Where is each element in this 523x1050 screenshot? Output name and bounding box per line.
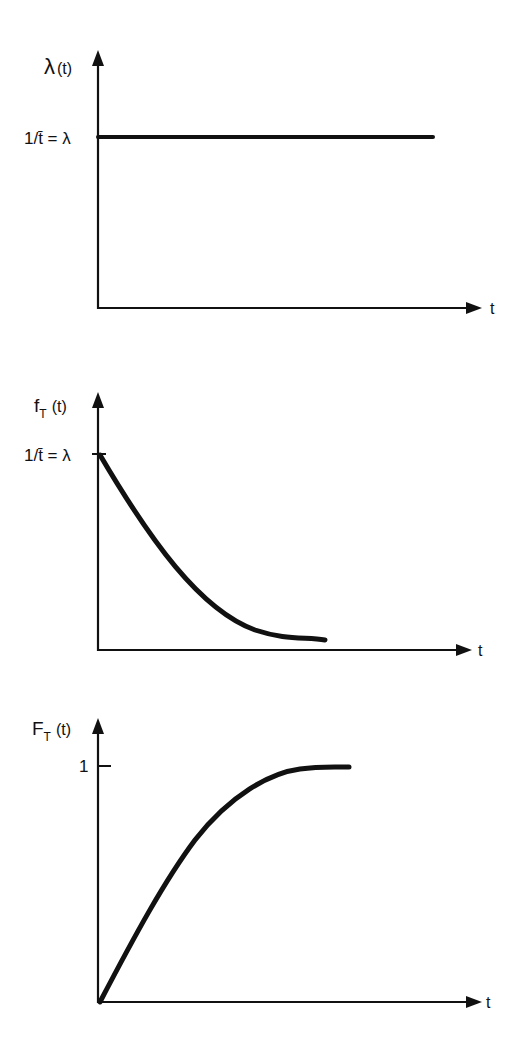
y-axis-arrow-icon [92, 718, 104, 734]
y-label-sub: T [44, 730, 52, 744]
y-label-arg: (t) [57, 60, 72, 77]
y-label-main: F [32, 718, 44, 739]
y-axis-label: fT(t) [34, 395, 67, 421]
x-axis-label: t [478, 642, 483, 659]
y-axis-arrow-icon [92, 50, 104, 66]
figure-canvas: t λ(t) 1/t̄ = λ t fT(t) 1/t̄ = λ t FT(t)… [0, 0, 523, 1050]
y-axis-label: λ(t) [44, 54, 72, 79]
y-tick-label: 1/t̄ = λ [24, 129, 71, 148]
x-axis-label: t [490, 300, 495, 317]
y-label-sub: T [39, 407, 47, 421]
chart-cumulative: t FT(t) 1 [32, 718, 491, 1011]
x-axis-arrow-icon [466, 996, 482, 1008]
cumulative-curve [100, 767, 349, 1002]
y-label-arg: (t) [56, 721, 71, 738]
y-tick-label: 1/t̄ = λ [24, 446, 71, 465]
y-label-main: λ [44, 54, 55, 79]
x-axis-label: t [486, 994, 491, 1011]
chart-density: t fT(t) 1/t̄ = λ [24, 392, 483, 659]
x-axis-arrow-icon [456, 644, 472, 656]
y-axis-arrow-icon [92, 392, 104, 408]
y-tick-label: 1 [79, 757, 88, 776]
x-axis-arrow-icon [466, 302, 482, 314]
density-curve [100, 455, 325, 640]
y-axis-label: FT(t) [32, 718, 71, 744]
chart-hazard-rate: t λ(t) 1/t̄ = λ [24, 50, 495, 317]
y-label-arg: (t) [52, 398, 67, 415]
